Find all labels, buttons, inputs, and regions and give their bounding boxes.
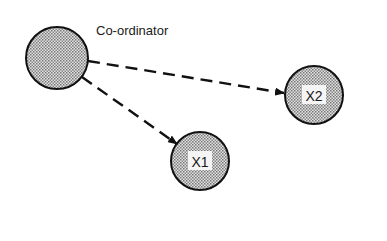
node-x2-label: X2 bbox=[305, 88, 322, 104]
node-x2: X2 bbox=[285, 66, 343, 124]
node-x1: X1 bbox=[171, 132, 229, 190]
diagram-canvas: Co-ordinator X2 X1 bbox=[0, 0, 387, 241]
edge-coordinator-to-x1 bbox=[82, 77, 177, 144]
node-coordinator bbox=[26, 27, 88, 89]
node-x1-label: X1 bbox=[191, 154, 208, 170]
coordinator-caption: Co-ordinator bbox=[96, 23, 169, 38]
edge-coordinator-to-x2 bbox=[88, 61, 284, 93]
